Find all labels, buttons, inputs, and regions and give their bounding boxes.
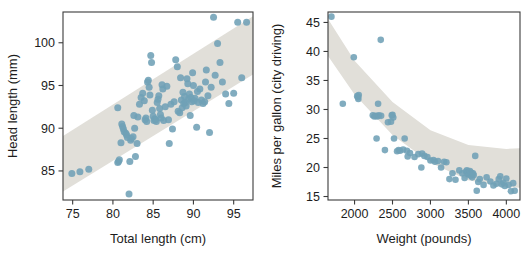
- data-point: [230, 90, 237, 97]
- left-plot-svg: 7580859095859095100Total length (cm)Head…: [0, 0, 266, 260]
- data-point: [222, 91, 229, 98]
- data-point: [497, 173, 504, 180]
- data-point: [139, 90, 146, 97]
- data-point: [126, 191, 133, 198]
- y-tick-label: 95: [41, 79, 55, 93]
- data-point: [174, 63, 181, 70]
- data-point: [116, 156, 123, 163]
- data-point: [470, 172, 477, 179]
- data-point: [146, 91, 153, 98]
- data-point: [243, 19, 250, 26]
- data-point: [446, 176, 453, 183]
- data-point: [130, 133, 137, 140]
- data-point: [435, 158, 442, 165]
- y-tick-label: 35: [306, 74, 320, 88]
- data-point: [132, 153, 139, 160]
- data-point: [141, 97, 148, 104]
- y-tick-label: 40: [306, 45, 320, 59]
- data-point: [391, 135, 398, 142]
- data-point: [340, 100, 347, 107]
- data-point: [147, 52, 154, 59]
- data-point: [204, 92, 211, 99]
- data-point: [390, 114, 397, 121]
- data-point: [503, 175, 510, 182]
- x-tick-label: 3500: [454, 207, 482, 221]
- data-point: [190, 82, 197, 89]
- data-point: [511, 187, 518, 194]
- data-point: [212, 72, 219, 79]
- data-point: [202, 79, 209, 86]
- data-point: [401, 135, 408, 142]
- y-tick-label: 30: [306, 103, 320, 117]
- data-point: [155, 92, 162, 99]
- data-point: [187, 112, 194, 119]
- data-point: [480, 182, 487, 189]
- data-point: [328, 13, 335, 20]
- y-tick-label: 15: [306, 190, 320, 204]
- data-point: [145, 77, 152, 84]
- scatter-panel-head-length: 7580859095859095100Total length (cm)Head…: [0, 0, 266, 260]
- data-point: [206, 129, 213, 136]
- data-point: [418, 164, 425, 171]
- right-plot-svg: 2000250030003500400015202530354045Weight…: [266, 0, 532, 260]
- data-point: [373, 135, 380, 142]
- data-point: [476, 176, 483, 183]
- x-tick-label: 4000: [492, 207, 520, 221]
- data-point: [117, 139, 124, 146]
- data-point: [134, 114, 141, 121]
- data-point: [225, 100, 232, 107]
- data-point: [219, 79, 226, 86]
- y-tick-label: 25: [306, 132, 320, 146]
- data-point: [68, 170, 75, 177]
- data-point: [171, 98, 178, 105]
- x-axis-label: Total length (cm): [110, 231, 206, 246]
- data-point: [134, 140, 141, 147]
- prediction-band: [328, 19, 520, 188]
- data-point: [143, 118, 150, 125]
- scatter-panel-mpg: 2000250030003500400015202530354045Weight…: [266, 0, 532, 260]
- data-point: [238, 74, 245, 81]
- data-point: [165, 116, 172, 123]
- data-point: [177, 74, 184, 81]
- data-point: [183, 103, 190, 110]
- data-point: [201, 98, 208, 105]
- x-tick-label: 3000: [417, 207, 445, 221]
- data-point: [438, 164, 445, 171]
- y-tick-label: 85: [41, 164, 55, 178]
- x-tick-label: 2000: [341, 207, 369, 221]
- data-point: [377, 37, 384, 44]
- data-point: [126, 158, 133, 165]
- x-tick-label: 2500: [379, 207, 407, 221]
- data-point: [193, 124, 200, 131]
- figure-root: 7580859095859095100Total length (cm)Head…: [0, 0, 532, 260]
- data-point: [214, 40, 221, 47]
- y-tick-label: 20: [306, 161, 320, 175]
- x-axis-label: Weight (pounds): [376, 231, 471, 246]
- data-point: [146, 84, 153, 91]
- data-point: [473, 187, 480, 194]
- data-point: [351, 54, 358, 61]
- data-point: [355, 92, 362, 99]
- data-point: [208, 84, 215, 91]
- data-point: [378, 113, 385, 120]
- data-point: [169, 126, 176, 133]
- data-point: [149, 107, 156, 114]
- y-axis-label: Head length (mm): [5, 54, 20, 158]
- data-point: [196, 85, 203, 92]
- x-tick-label: 85: [146, 207, 160, 221]
- x-tick-label: 90: [186, 207, 200, 221]
- data-point: [76, 168, 83, 175]
- data-point: [472, 153, 479, 160]
- data-point: [85, 166, 92, 173]
- data-point: [510, 180, 517, 187]
- data-point: [203, 67, 210, 74]
- data-point: [210, 14, 217, 21]
- y-tick-label: 100: [34, 36, 55, 50]
- y-axis-label: Miles per gallon (city driving): [269, 24, 284, 189]
- data-point: [131, 125, 138, 132]
- x-tick-label: 95: [227, 207, 241, 221]
- data-point: [216, 59, 223, 66]
- data-point: [163, 83, 170, 90]
- data-point: [452, 176, 459, 183]
- y-tick-label: 90: [41, 122, 55, 136]
